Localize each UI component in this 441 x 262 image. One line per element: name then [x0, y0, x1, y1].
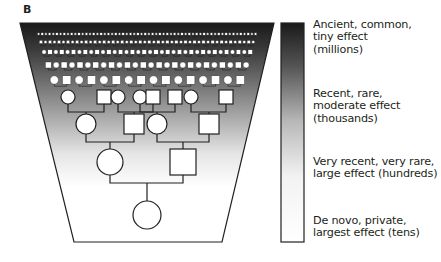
ancestor-gen1-female [97, 149, 123, 175]
ancestor-node [211, 40, 214, 43]
ancestor-node [48, 33, 50, 35]
ancestor-gen3-male [146, 90, 160, 104]
ancestor-gen2-male [124, 114, 144, 134]
ancestor-node [166, 40, 169, 43]
ancestor-node [211, 76, 219, 84]
ancestor-node [202, 40, 205, 43]
ancestor-node [65, 50, 69, 54]
ancestor-node [137, 33, 139, 35]
ancestor-node [129, 33, 131, 35]
legend-de-novo: De novo, private,largest effect (tens) [313, 215, 420, 240]
ancestor-node [44, 40, 47, 43]
ancestor-node [188, 62, 194, 68]
ancestor-node [83, 50, 87, 54]
ancestor-node [174, 76, 182, 84]
ancestor-node [213, 50, 217, 54]
ancestor-node [54, 50, 58, 54]
ancestor-node [71, 40, 74, 43]
ancestor-node [95, 50, 99, 54]
ancestor-node [107, 33, 109, 35]
ancestor-node [45, 62, 51, 68]
ancestor-node [52, 33, 54, 35]
ancestor-node [248, 50, 252, 54]
ancestor-node [50, 76, 58, 84]
ancestor-node [196, 62, 202, 68]
ancestor-node [39, 40, 42, 43]
ancestor-node [224, 50, 228, 54]
ancestor-node [197, 40, 200, 43]
ancestor-node [124, 50, 128, 54]
ancestor-node [101, 62, 107, 68]
ancestor-node [93, 33, 95, 35]
ancestor-node [74, 33, 76, 35]
ancestor-node [140, 62, 146, 68]
ancestor-node [234, 40, 237, 43]
ancestor-node [166, 50, 170, 54]
legend-line: large effect (hundreds) [313, 168, 437, 180]
ancestor-node [235, 62, 241, 68]
ancestor-node [148, 50, 152, 54]
ancestor-node [152, 40, 155, 43]
ancestor-node [183, 50, 187, 54]
ancestor-node [37, 33, 39, 35]
ancestor-node [236, 50, 240, 54]
ancestor-node [162, 33, 164, 35]
ancestor-node [89, 40, 92, 43]
ancestor-node [157, 40, 160, 43]
ancestor-node [204, 62, 210, 68]
ancestor-node [48, 40, 51, 43]
ancestor-node [77, 50, 81, 54]
ancestor-node [122, 33, 124, 35]
ancestor-gen3-female [184, 90, 198, 104]
ancestor-node [149, 76, 157, 84]
ancestor-node [104, 33, 106, 35]
ancestor-node [238, 40, 241, 43]
ancestor-node [195, 50, 199, 54]
ancestor-node [243, 40, 246, 43]
ancestor-node [216, 40, 219, 43]
ancestor-node [75, 76, 83, 84]
ancestor-node [53, 62, 59, 68]
proband-female [133, 201, 161, 229]
ancestor-node [61, 62, 67, 68]
ancestor-node [100, 76, 108, 84]
ancestor-node [80, 40, 83, 43]
ancestor-node [227, 62, 233, 68]
ancestor-node [111, 33, 113, 35]
ancestor-node [203, 33, 205, 35]
ancestor-node [144, 33, 146, 35]
ancestor-node [136, 50, 140, 54]
ancestor-node [126, 33, 128, 35]
ancestor-node [71, 50, 75, 54]
ancestor-node [207, 40, 210, 43]
ancestor-node [177, 50, 181, 54]
ancestor-node [207, 50, 211, 54]
ancestor-node [115, 33, 117, 35]
ancestor-node [67, 33, 69, 35]
ancestor-node [76, 40, 79, 43]
ancestor-node [192, 33, 194, 35]
ancestor-node [107, 40, 110, 43]
ancestor-node [155, 33, 157, 35]
ancestor-node [254, 33, 256, 35]
ancestor-gen2-male [199, 114, 219, 134]
ancestor-node [185, 33, 187, 35]
ancestor-gen3-male [97, 90, 111, 104]
ancestor-node [173, 33, 175, 35]
ancestor-node [230, 50, 234, 54]
ancestor-gen3-male [168, 90, 182, 104]
ancestor-node [85, 62, 91, 68]
ancestor-node [160, 50, 164, 54]
ancestor-node [41, 33, 43, 35]
ancestor-node [89, 33, 91, 35]
ancestor-node [225, 33, 227, 35]
ancestor-node [132, 62, 138, 68]
ancestor-node [116, 40, 119, 43]
ancestor-node [63, 76, 71, 84]
ancestor-gen2-female [76, 114, 96, 134]
ancestor-node [171, 50, 175, 54]
ancestor-node [94, 40, 97, 43]
ancestor-node [109, 62, 115, 68]
ancestor-node [180, 62, 186, 68]
ancestor-node [242, 50, 246, 54]
